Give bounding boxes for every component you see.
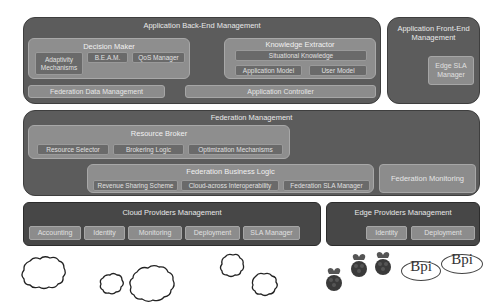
brokering-logic-box: Brokering Logic — [113, 144, 184, 155]
banana-pi-label: Bpi — [403, 258, 439, 275]
federation-monitoring-box: Federation Monitoring — [379, 164, 476, 193]
revenue-sharing-scheme-box: Revenue Sharing Scheme — [93, 180, 178, 191]
decision-maker-title: Decision Maker — [29, 42, 189, 51]
beam-box: B.E.A.M. — [87, 52, 128, 63]
raspberry-pi-icon — [375, 252, 391, 275]
edge-providers-box: Edge Providers Management Identity Deplo… — [326, 202, 480, 246]
qos-manager-box: QoS Manager — [132, 52, 185, 63]
decision-maker-group: Decision Maker Adaptivity Mechanisms B.E… — [28, 38, 190, 79]
business-logic-group: Federation Business Logic Revenue Sharin… — [87, 164, 374, 193]
cloud-icon — [252, 273, 277, 295]
backend-management-box: Application Back-End Management Decision… — [23, 17, 381, 104]
cloud-icons — [0, 248, 300, 308]
optimization-mechanisms-box: Optimization Mechanisms — [188, 144, 283, 155]
accounting-box: Accounting — [29, 226, 81, 240]
federation-management-box: Federation Management Resource Broker Re… — [23, 110, 480, 196]
cloud-icon — [221, 254, 244, 276]
edge-sla-manager-box: Edge SLA Manager — [428, 56, 474, 85]
cloud-icon — [100, 274, 123, 294]
frontend-management-box: Application Front-End Management Edge SL… — [387, 17, 480, 104]
edge-deployment-box: Deployment — [411, 226, 475, 240]
frontend-title: Application Front-End Management — [388, 24, 479, 43]
raspberry-pi-icons — [320, 248, 400, 308]
cloud-icon — [130, 266, 174, 302]
adaptivity-mechanisms-box: Adaptivity Mechanisms — [35, 52, 83, 75]
cloud-providers-title: Cloud Providers Management — [24, 208, 320, 217]
backend-title: Application Back-End Management — [24, 21, 380, 30]
edge-identity-box: Identity — [366, 226, 407, 240]
application-model-box: Application Model — [235, 65, 302, 76]
resource-broker-group: Resource Broker Resource Selector Broker… — [28, 125, 290, 159]
cloud-interoperability-box: Cloud-across Interoperability — [181, 180, 279, 191]
identity-box: Identity — [84, 226, 125, 240]
knowledge-extractor-group: Knowledge Extractor Situational Knowledg… — [224, 38, 376, 79]
monitoring-box: Monitoring — [128, 226, 182, 240]
business-logic-title: Federation Business Logic — [88, 167, 373, 176]
raspberry-pi-icon — [351, 254, 367, 277]
federation-title: Federation Management — [24, 113, 479, 122]
banana-pi-label: Bpi — [443, 251, 481, 268]
knowledge-extractor-title: Knowledge Extractor — [225, 40, 375, 49]
raspberry-pi-icon — [326, 268, 342, 291]
user-model-box: User Model — [309, 65, 367, 76]
edge-providers-title: Edge Providers Management — [327, 208, 479, 217]
deployment-box: Deployment — [185, 226, 240, 240]
cloud-providers-box: Cloud Providers Management Accounting Id… — [23, 202, 321, 246]
application-controller-box: Application Controller — [185, 85, 376, 98]
cloud-icon — [22, 257, 65, 289]
federation-sla-manager-box: Federation SLA Manager — [283, 180, 370, 191]
federation-data-management-box: Federation Data Management — [28, 85, 165, 98]
resource-broker-title: Resource Broker — [29, 129, 289, 138]
resource-selector-box: Resource Selector — [37, 144, 109, 155]
situational-knowledge-box: Situational Knowledge — [235, 50, 367, 61]
sla-manager-box: SLA Manager — [243, 226, 300, 240]
